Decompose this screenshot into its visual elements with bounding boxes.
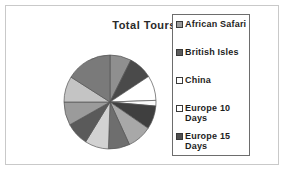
chart-title: Total Tours [106,19,176,31]
legend-item-british-isles[interactable]: British Isles [176,47,247,74]
legend-item-african-safari[interactable]: African Safari [176,19,247,46]
legend-swatch-europe-10-days [176,105,183,112]
legend-label-african-safari: African Safari [185,19,246,29]
legend-label-china: China [185,75,211,85]
legend-swatch-african-safari [176,21,183,28]
pie-slices [64,55,156,149]
legend-label-british-isles: British Isles [185,47,239,57]
legend-item-europe-10-days[interactable]: Europe 10 Days [176,103,247,130]
chart-frame: Total Tours African Safari British Isles… [5,5,279,165]
legend-label-europe-15-days: Europe 15 Days [185,131,247,151]
legend-item-europe-15-days[interactable]: Europe 15 Days [176,131,247,158]
legend-swatch-europe-15-days [176,133,183,140]
legend-label-europe-10-days: Europe 10 Days [185,103,247,123]
chart-legend: African Safari British Isles China Europ… [172,14,250,156]
pie-chart [62,52,158,150]
legend-swatch-british-isles [176,49,183,56]
legend-swatch-china [176,77,183,84]
legend-item-china[interactable]: China [176,75,247,102]
